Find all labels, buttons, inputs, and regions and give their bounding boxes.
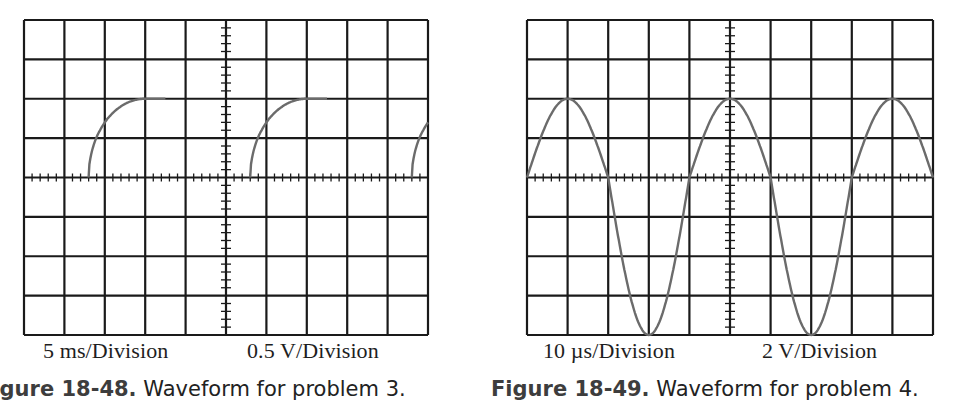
volt-scale-label-right: 2 V/Division	[762, 338, 877, 364]
waveform-plot-left	[24, 20, 428, 335]
figure-number-right: Figure 18-49.	[491, 377, 650, 401]
waveform-plot-right	[527, 20, 933, 335]
graticule	[24, 20, 428, 335]
figure-number-left: Figure 18-48.	[0, 377, 137, 401]
graticule	[527, 20, 933, 335]
volt-scale-label-left: 0.5 V/Division	[247, 338, 379, 364]
time-scale-label-right: 10 µs/Division	[543, 338, 675, 364]
oscilloscope-screen-left	[24, 20, 428, 335]
figure-caption-text-right: Waveform for problem 4.	[650, 377, 919, 401]
figure-caption-right: Figure 18-49. Waveform for problem 4.	[491, 377, 919, 401]
figure-caption-left: Figure 18-48. Waveform for problem 3.	[0, 377, 406, 401]
oscilloscope-screen-right	[527, 20, 933, 335]
time-scale-label-left: 5 ms/Division	[43, 338, 168, 364]
figure-caption-text-left: Waveform for problem 3.	[137, 377, 406, 401]
